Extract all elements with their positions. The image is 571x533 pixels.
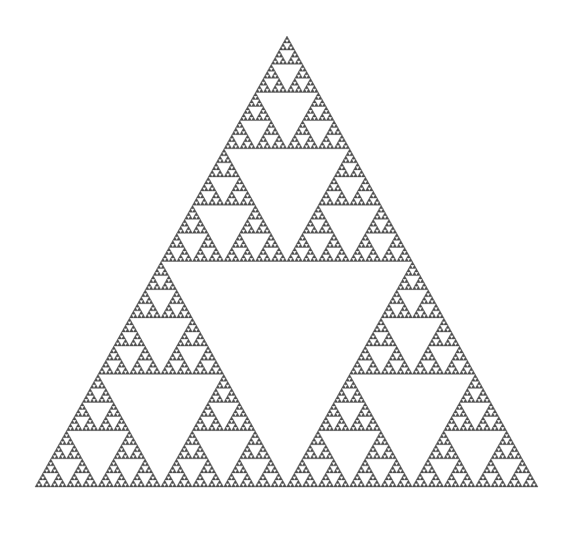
sierpinski-triangle-figure — [0, 0, 571, 533]
figure-background — [0, 0, 571, 533]
figure-canvas — [0, 0, 571, 533]
